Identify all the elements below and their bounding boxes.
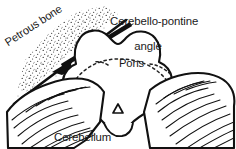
label-cp-angle-line2: angle [82, 40, 214, 53]
label-cerebello-pontine-angle: Cerebello-pontine angle [82, 2, 214, 79]
label-cerebellum: Cerebellum [54, 131, 111, 144]
label-cp-angle-line1: Cerebello-pontine [110, 15, 198, 27]
anatomical-diagram: Cerebello-pontine angle Petrous bone Pon… [0, 0, 236, 149]
cerebellum-right-lobe [144, 73, 234, 149]
label-pons: Pons [119, 57, 144, 70]
